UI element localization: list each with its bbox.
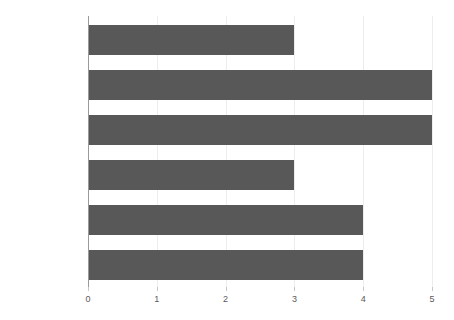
x-axis-tick-mark (294, 287, 295, 291)
bar-band: Cost (88, 243, 432, 288)
bar[interactable] (88, 250, 363, 280)
gridline (432, 16, 433, 287)
x-axis-tick-label: 0 (68, 294, 108, 304)
x-axis-tick-mark (363, 287, 364, 291)
bar-band: Anti-Aging (88, 153, 432, 198)
bar[interactable] (88, 70, 432, 100)
x-axis-tick-label: 4 (343, 294, 383, 304)
bar-band: Burning Fat (88, 18, 432, 63)
x-axis-tick-mark (88, 287, 89, 291)
x-axis-tick-label: 2 (206, 294, 246, 304)
x-axis-tick-label: 1 (137, 294, 177, 304)
x-axis-tick-label: 5 (412, 294, 452, 304)
y-axis-line (88, 16, 89, 287)
bar[interactable] (88, 25, 294, 55)
x-axis-tick-mark (157, 287, 158, 291)
x-axis-tick-mark (432, 287, 433, 291)
bar-band: Recovery (88, 108, 432, 153)
bar[interactable] (88, 205, 363, 235)
bar[interactable] (88, 160, 294, 190)
x-axis-tick-label: 3 (274, 294, 314, 304)
bar-band: Building Muscle (88, 63, 432, 108)
bar-chart: Burning FatBuilding MuscleRecoveryAnti-A… (0, 0, 454, 320)
plot-area: Burning FatBuilding MuscleRecoveryAnti-A… (88, 16, 432, 287)
bar[interactable] (88, 115, 432, 145)
x-axis-tick-mark (226, 287, 227, 291)
bar-band: Side-Effects (88, 198, 432, 243)
